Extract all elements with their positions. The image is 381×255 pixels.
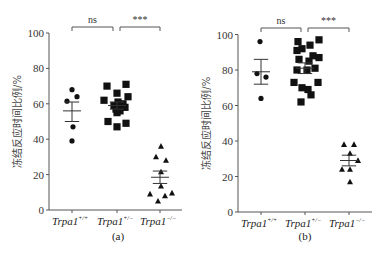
data-point-triangle [341,141,347,147]
significance-label: *** [321,15,336,26]
group-label: Trpa1+/− [97,215,133,227]
y-tick-label: 0 [39,204,45,216]
significance-bracket [308,28,349,32]
y-tick-label: 60 [222,100,234,112]
data-point-square [103,83,110,90]
data-point-square [122,120,129,127]
panel-caption: (b) [299,230,312,243]
data-point-triangle [147,191,153,197]
data-point-square [100,97,107,104]
data-point-square [305,58,312,65]
group-label: Trpa1+/+ [241,217,277,229]
data-point-triangle [162,193,168,199]
data-point-circle [257,39,262,44]
data-point-circle [258,96,263,101]
data-point-triangle [339,166,345,172]
series-triangles [339,141,361,184]
data-point-square [293,66,300,73]
data-point-triangle [158,143,164,149]
y-tick-label: 20 [222,171,234,183]
data-point-square [113,123,120,130]
data-point-square [314,79,321,86]
group-label: Trpa1−/− [329,217,365,229]
data-point-circle [74,94,79,99]
data-point-square [315,54,322,61]
data-point-square [122,81,129,88]
panel-a-chart: 020406080100冻结反应时间比例/%Trpa1+/+Trpa1+/−Tr… [11,14,182,243]
mean-sem-bar [252,59,270,84]
group-label: Trpa1+/− [285,217,321,229]
data-point-triangle [347,166,353,172]
y-tick-label: 40 [222,135,234,147]
mean-sem-bar [151,171,169,183]
data-point-square [295,56,302,63]
series-squares [290,36,322,105]
data-point-square [294,38,301,45]
data-point-square [104,118,111,125]
data-point-square [303,66,310,73]
data-point-square [297,98,304,105]
data-point-circle [263,75,268,80]
data-point-circle [64,99,69,104]
y-axis-label: 冻结反应时间比例/% [11,75,23,168]
data-point-triangle [347,179,353,185]
significance-label: ns [277,15,286,26]
mean-sem-bar [340,155,358,166]
data-point-square [113,109,120,116]
significance-bracket [120,27,160,31]
data-point-triangle [351,141,357,147]
y-tick-label: 80 [33,62,45,74]
y-tick-label: 100 [217,29,234,41]
data-point-circle [70,124,75,129]
y-axis-label: 冻结反应时间比例/% [200,77,212,170]
figure: 020406080100冻结反应时间比例/%Trpa1+/+Trpa1+/−Tr… [0,0,381,255]
series-triangles [147,143,175,203]
significance-label: *** [133,14,148,25]
group-label: Trpa1−/− [140,215,176,227]
group-label: Trpa1+/+ [52,215,88,227]
panel-caption: (a) [112,230,125,243]
data-point-triangle [169,190,175,196]
y-tick-label: 40 [33,133,45,145]
mean-sem-bar [63,102,81,121]
data-point-square [315,36,322,43]
data-point-square [290,79,297,86]
data-point-circle [69,138,74,143]
y-tick-label: 60 [33,98,45,110]
y-tick-label: 100 [28,27,45,39]
significance-bracket [261,28,301,32]
y-tick-label: 20 [33,169,45,181]
data-point-triangle [153,154,159,160]
significance-bracket [72,27,113,31]
data-point-triangle [155,198,161,204]
panel-b-chart: 020406080100冻结反应时间比例/%Trpa1+/+Trpa1+/−Tr… [200,15,372,243]
data-point-circle [69,87,74,92]
data-point-triangle [163,157,169,163]
y-tick-label: 80 [222,64,234,76]
data-point-square [298,45,305,52]
significance-label: ns [88,14,97,25]
y-tick-label: 0 [228,206,234,218]
data-point-square [306,42,313,49]
data-point-square [113,90,120,97]
data-point-square [307,91,314,98]
data-point-square [124,93,131,100]
